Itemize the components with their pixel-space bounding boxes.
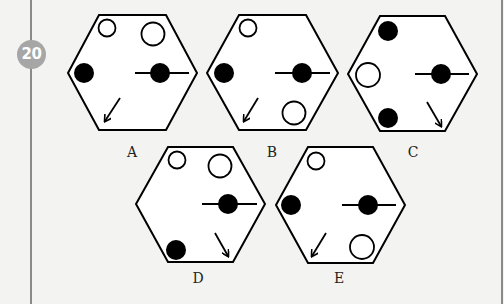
filled-circle-icon bbox=[150, 63, 170, 83]
open-circle-icon bbox=[169, 152, 186, 169]
option-figure-e[interactable] bbox=[276, 147, 405, 263]
open-circle-icon bbox=[142, 23, 165, 46]
option-figure-a[interactable] bbox=[68, 15, 197, 130]
filled-circle-icon bbox=[218, 194, 238, 214]
option-label-c[interactable]: C bbox=[408, 144, 419, 160]
open-circle-icon bbox=[283, 102, 306, 125]
filled-circle-icon bbox=[431, 64, 451, 84]
filled-circle-icon bbox=[378, 108, 398, 128]
filled-circle-icon bbox=[74, 63, 94, 83]
filled-circle-icon bbox=[214, 63, 234, 83]
open-circle-icon bbox=[209, 155, 232, 178]
open-circle-icon bbox=[308, 153, 325, 170]
filled-circle-icon bbox=[281, 195, 301, 215]
filled-circle-icon bbox=[378, 21, 398, 41]
open-circle-icon bbox=[240, 20, 257, 37]
option-figure-c[interactable] bbox=[348, 16, 477, 131]
option-figure-b[interactable] bbox=[207, 15, 338, 130]
option-label-d[interactable]: D bbox=[192, 270, 203, 286]
open-circle-icon bbox=[350, 235, 374, 259]
answer-options-figures bbox=[0, 0, 504, 304]
option-label-b[interactable]: B bbox=[267, 144, 277, 160]
option-label-e[interactable]: E bbox=[334, 270, 344, 286]
option-label-a[interactable]: A bbox=[127, 144, 137, 160]
filled-circle-icon bbox=[292, 63, 312, 83]
open-circle-icon bbox=[356, 63, 380, 87]
option-figure-d[interactable] bbox=[136, 147, 265, 262]
filled-circle-icon bbox=[358, 195, 378, 215]
open-circle-icon bbox=[99, 20, 116, 37]
filled-circle-icon bbox=[166, 240, 186, 260]
